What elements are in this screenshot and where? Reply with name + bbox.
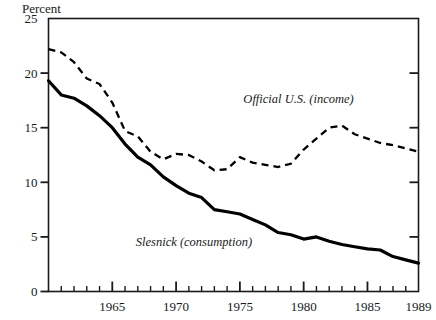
series-annotation: Slesnick (consumption) <box>136 235 252 249</box>
y-axis-tick-label: 0 <box>31 284 38 299</box>
y-axis-tick-label: 20 <box>25 66 38 81</box>
x-axis-tick-labels-group: 196519701975198019851989 <box>99 299 431 314</box>
data-series-group <box>49 49 419 263</box>
x-axis-tick-label: 1985 <box>354 299 380 314</box>
chart-figure: Percent 196519701975198019851989 0510152… <box>0 0 436 320</box>
x-axis-tick-label: 1975 <box>227 299 253 314</box>
x-axis-tick-label: 1970 <box>163 299 189 314</box>
y-axis-tick-label: 25 <box>25 11 38 26</box>
plot-frame <box>49 19 419 292</box>
x-axis-tick-label: 1989 <box>406 299 432 314</box>
y-axis-tick-label: 10 <box>25 175 38 190</box>
y-axis-tick-label: 15 <box>25 120 38 135</box>
poverty-rate-line-chart: Percent 196519701975198019851989 0510152… <box>0 0 436 320</box>
series-annotations-group: Official U.S. (income)Slesnick (consumpt… <box>136 92 354 249</box>
x-axis-tick-label: 1980 <box>291 299 317 314</box>
x-axis-tick-label: 1965 <box>99 299 125 314</box>
series-annotation: Official U.S. (income) <box>243 92 353 106</box>
y-axis-tick-labels-group: 0510152025 <box>25 11 38 299</box>
series-line-official-u-s-income <box>49 49 419 170</box>
plot-frame-group <box>49 19 419 292</box>
y-axis-ticks-group <box>41 73 419 291</box>
y-axis-tick-label: 5 <box>31 229 38 244</box>
x-axis-ticks-group <box>61 282 405 292</box>
